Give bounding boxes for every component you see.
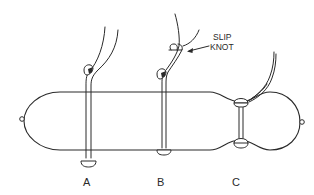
balloon-diagram: SLIP KNOT A B C xyxy=(0,0,314,195)
slip-knot-annotation: SLIP KNOT xyxy=(187,32,234,53)
tie-c xyxy=(234,52,276,148)
string-b xyxy=(157,14,199,155)
slip-knot-label-line1: SLIP xyxy=(213,32,232,42)
balloon-left-nub xyxy=(20,117,25,122)
balloon-right-nub xyxy=(300,120,305,125)
label-c: C xyxy=(232,176,240,188)
label-b: B xyxy=(157,176,164,188)
string-a-end-knot xyxy=(81,161,96,167)
label-a: A xyxy=(83,176,91,188)
tie-c-top-bead xyxy=(234,99,248,104)
slip-knot xyxy=(169,44,182,50)
slip-knot-label-line2: KNOT xyxy=(210,42,234,52)
string-b-end-knot xyxy=(157,150,171,155)
string-a xyxy=(81,27,118,167)
